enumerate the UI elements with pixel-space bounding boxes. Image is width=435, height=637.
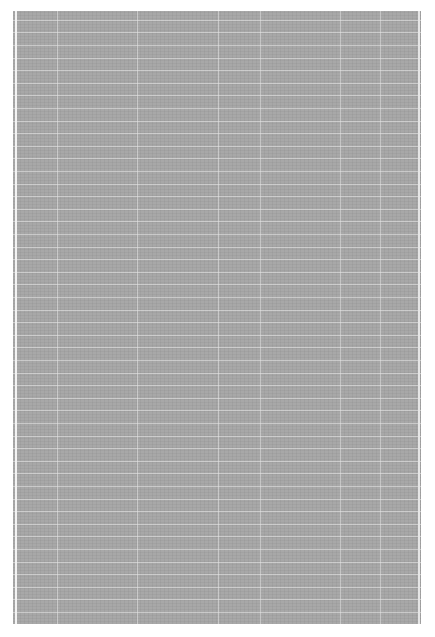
- grid-vertical-line: [260, 11, 261, 624]
- gray-grid-sheet: [13, 11, 421, 624]
- grid-vertical-line: [218, 11, 219, 624]
- grid-vertical-line: [380, 11, 381, 624]
- grid-vertical-line: [137, 11, 138, 624]
- left-edge-highlight: [15, 11, 17, 624]
- right-edge-highlight: [418, 11, 420, 624]
- grid-vertical-line: [340, 11, 341, 624]
- grid-vertical-line: [57, 11, 58, 624]
